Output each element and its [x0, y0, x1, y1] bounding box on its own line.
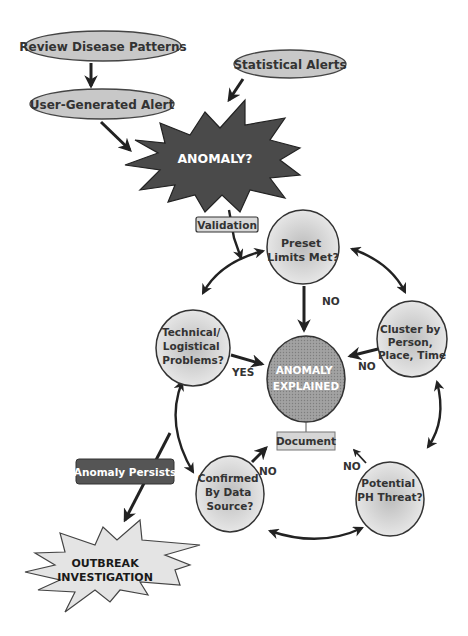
- threat-line-1: Potential: [361, 477, 415, 489]
- potential-ph-threat-node: Potential PH Threat?: [356, 462, 424, 536]
- cluster-no-label: NO: [358, 360, 376, 372]
- preset-no-label: NO: [322, 295, 340, 307]
- threat-line-2: PH Threat?: [357, 491, 422, 503]
- preset-cluster-arrow: [352, 249, 405, 292]
- technical-problems-node: Technical/ Logistical Problems?: [156, 310, 230, 386]
- review-disease-patterns-node: Review Disease Patterns: [19, 31, 186, 61]
- validation-box: Validation: [196, 217, 258, 232]
- workflow-diagram: Review Disease Patterns User-Generated A…: [0, 0, 468, 636]
- technical-line-2: Logistical: [163, 340, 220, 352]
- user-alert-label: User-Generated Alert: [30, 98, 175, 112]
- technical-line-3: Problems?: [162, 354, 224, 366]
- preset-line-2: Limits Met?: [267, 251, 339, 264]
- anomaly-persists-box: Anomaly Persists: [74, 459, 176, 484]
- technical-confirmed-arrow: [176, 382, 193, 472]
- svg-text:Confirmed By Data: Confirmed By Data Source?: [198, 472, 263, 512]
- anomaly-question-burst: ANOMALY?: [125, 100, 300, 212]
- preset-limits-node: Preset Limits Met?: [267, 210, 339, 284]
- svg-text:OUTBREAK INVESTIGATION: OUTBREAK INVESTIGATION: [57, 557, 153, 584]
- outbreak-investigation-burst: OUTBREAK INVESTIGATION: [25, 520, 200, 612]
- threat-no-label: NO: [343, 460, 361, 472]
- stat-alerts-to-anomaly-arrow: [229, 79, 243, 100]
- preset-technical-arrow: [203, 251, 263, 293]
- outbreak-line-1: OUTBREAK: [71, 557, 139, 570]
- cluster-line-1: Cluster by: [380, 323, 441, 335]
- confirmed-line-3: Source?: [207, 500, 254, 512]
- anomaly-label: ANOMALY?: [177, 151, 252, 166]
- document-label: Document: [276, 435, 336, 447]
- confirmed-by-data-source-node: Confirmed By Data Source?: [196, 456, 264, 532]
- statistical-alerts-node: Statistical Alerts: [233, 50, 346, 78]
- cluster-line-3: Place, Time: [378, 349, 446, 361]
- confirmed-no-label: NO: [259, 465, 277, 477]
- technical-yes-label: YES: [231, 366, 254, 378]
- technical-line-1: Technical/: [162, 326, 221, 338]
- preset-line-1: Preset: [281, 237, 321, 250]
- confirmed-threat-arrow: [270, 528, 362, 539]
- svg-text:Technical/ Logistical: Technical/ Logistical Problems?: [162, 326, 224, 366]
- user-alert-to-anomaly-arrow: [101, 122, 130, 150]
- svg-text:Cluster by Person,: Cluster by Person, Place, Time: [378, 323, 446, 361]
- confirmed-to-document-arrow: [252, 448, 266, 462]
- cluster-threat-arrow: [428, 382, 440, 447]
- cluster-to-center-arrow: [350, 349, 378, 356]
- review-label: Review Disease Patterns: [19, 40, 186, 54]
- technical-to-center-arrow: [231, 355, 262, 364]
- center-line-2: EXPLAINED: [273, 380, 340, 392]
- stat-alerts-label: Statistical Alerts: [233, 58, 346, 72]
- cluster-line-2: Person,: [388, 336, 433, 348]
- outbreak-line-2: INVESTIGATION: [57, 571, 153, 584]
- center-line-1: ANOMALY: [276, 364, 333, 376]
- confirmed-line-2: By Data: [205, 486, 251, 498]
- user-generated-alert-node: User-Generated Alert: [30, 89, 175, 119]
- cluster-node: Cluster by Person, Place, Time: [377, 301, 447, 377]
- persists-label: Anomaly Persists: [74, 466, 176, 478]
- anomaly-explained-node: ANOMALY EXPLAINED: [267, 336, 345, 422]
- confirmed-line-1: Confirmed: [198, 472, 259, 484]
- validation-label: Validation: [197, 219, 257, 231]
- document-box: Document: [276, 432, 336, 450]
